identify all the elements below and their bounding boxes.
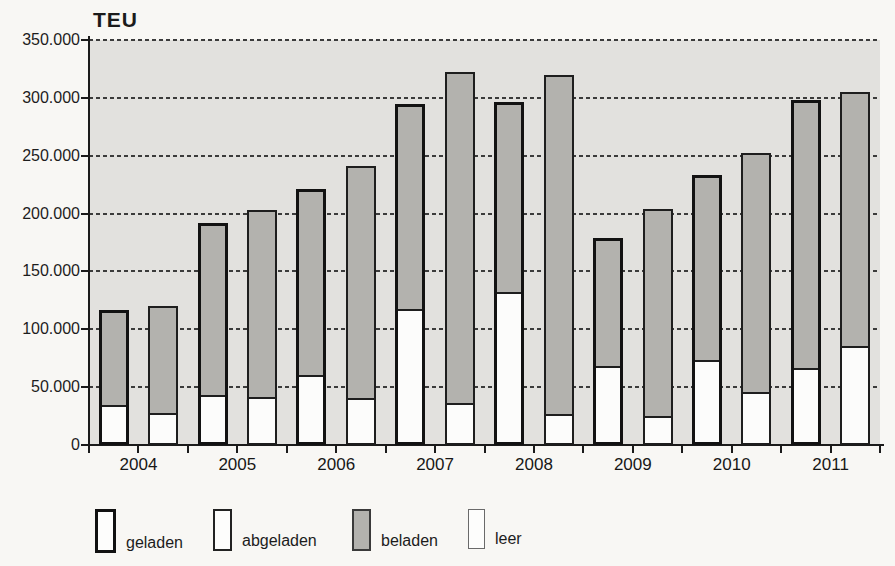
segment-leer-abgeladen-2010 [743,392,769,443]
bar-abgeladen-2005 [247,210,277,445]
segment-leer-abgeladen-2005 [249,397,275,443]
x-axis-tick [236,445,238,453]
x-axis-category-label: 2006 [317,455,355,475]
legend-item-geladen: geladen [95,509,183,553]
x-axis-category-label: 2005 [218,455,256,475]
bar-abgeladen-2004 [148,306,178,445]
gridline [89,97,880,99]
x-axis-tick [681,445,683,453]
segment-leer-geladen-2011 [794,368,818,442]
y-axis-tick-label: 350.000 [10,31,80,49]
bar-geladen-2008 [494,102,524,445]
x-axis-tick [731,445,733,453]
legend-item-beladen: beladen [352,509,438,551]
legend-item-leer: leer [468,509,522,549]
x-axis-tick [335,445,337,453]
x-axis-tick [484,445,486,453]
segment-leer-abgeladen-2004 [150,413,176,443]
legend-label-beladen: beladen [381,532,438,550]
y-axis-tick-label: 100.000 [10,320,80,338]
x-axis-tick [187,445,189,453]
legend-swatch-leer [468,509,485,549]
segment-leer-geladen-2008 [497,292,521,442]
x-axis-tick [632,445,634,453]
bar-abgeladen-2009 [643,209,673,445]
x-axis-tick [385,445,387,453]
bar-geladen-2009 [593,238,623,445]
bar-abgeladen-2010 [741,153,771,445]
segment-leer-abgeladen-2009 [645,416,671,443]
x-axis-tick [88,445,90,453]
bar-geladen-2010 [692,175,722,445]
legend-label-geladen: geladen [126,534,183,552]
legend-item-abgeladen: abgeladen [213,509,317,551]
x-axis-category-label: 2004 [120,455,158,475]
segment-leer-geladen-2005 [201,395,225,442]
segment-leer-abgeladen-2008 [546,414,572,443]
bar-geladen-2006 [296,189,326,445]
segment-leer-geladen-2006 [299,375,323,442]
segment-leer-geladen-2010 [695,360,719,442]
segment-leer-abgeladen-2007 [447,403,473,443]
segment-leer-geladen-2004 [102,405,126,442]
bar-abgeladen-2011 [840,92,870,445]
x-axis-category-label: 2009 [614,455,652,475]
segment-leer-abgeladen-2006 [348,398,374,443]
x-axis-tick [286,445,288,453]
y-axis-tick-label: 300.000 [10,89,80,107]
bar-abgeladen-2007 [445,72,475,445]
bar-abgeladen-2008 [544,75,574,445]
bar-geladen-2011 [791,100,821,445]
x-axis-category-label: 2007 [416,455,454,475]
legend-swatch-beladen [352,509,371,551]
scanned-bar-chart-page: TEU 350.000300.000250.000200.000150.0001… [0,0,895,566]
x-axis-tick [533,445,535,453]
segment-leer-geladen-2007 [398,309,422,442]
chart-title: TEU [93,8,138,32]
bar-geladen-2007 [395,104,425,445]
bar-geladen-2005 [198,223,228,445]
segment-leer-geladen-2009 [596,366,620,442]
x-axis-tick [582,445,584,453]
y-axis-tick-label: 250.000 [10,147,80,165]
bar-geladen-2004 [99,310,129,445]
legend-label-leer: leer [495,530,522,548]
y-axis-tick-label: 0 [10,436,80,454]
y-axis-tick-label: 150.000 [10,262,80,280]
bar-abgeladen-2006 [346,166,376,445]
gridline [89,39,880,41]
x-axis-tick [137,445,139,453]
legend-swatch-abgeladen [213,509,232,551]
x-axis-category-label: 2010 [713,455,751,475]
x-axis-tick [879,445,881,453]
x-axis-category-label: 2011 [812,455,849,475]
y-axis-line [88,36,90,446]
y-axis-tick-label: 200.000 [10,205,80,223]
legend-swatch-geladen [95,509,116,553]
x-axis-tick [434,445,436,453]
x-axis-category-label: 2008 [515,455,553,475]
x-axis-tick [780,445,782,453]
legend-label-abgeladen: abgeladen [242,532,317,550]
y-axis-tick-label: 50.000 [10,378,80,396]
x-axis-tick [830,445,832,453]
segment-leer-abgeladen-2011 [842,346,868,443]
